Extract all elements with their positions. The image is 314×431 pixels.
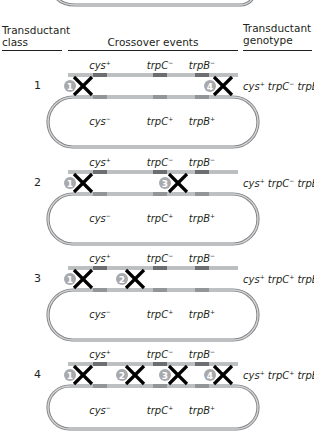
transductant-class-number: 3 xyxy=(34,272,41,285)
crossover-number-4: 4 xyxy=(207,371,213,381)
donor-gene-marker-trpB xyxy=(195,170,209,174)
donor-gene-label-trpB: trpB− xyxy=(189,252,215,264)
donor-gene-label-cys: cys+ xyxy=(89,348,111,360)
donor-gene-label-trpC: trpC− xyxy=(147,156,173,168)
recipient-gene-marker-trpC xyxy=(153,288,167,292)
transductant-class-number: 4 xyxy=(34,368,41,381)
recipient-gene-label-trpC: trpC+ xyxy=(147,404,173,416)
recipient-gene-marker-trpC xyxy=(153,95,167,99)
recipient-gene-label-trpC: trpC+ xyxy=(147,115,173,127)
recipient-gene-label-cys: cys− xyxy=(89,404,111,416)
donor-gene-label-trpC: trpC− xyxy=(147,59,173,71)
transductant-genotype: cys+ trpC+ trpB+ xyxy=(243,273,314,285)
donor-gene-marker-trpC xyxy=(153,266,167,270)
recipient-gene-marker-cys xyxy=(93,95,107,99)
recipient-gene-label-trpC: trpC+ xyxy=(147,212,173,224)
donor-gene-marker-trpC xyxy=(153,73,167,77)
donor-gene-marker-trpC xyxy=(153,170,167,174)
recipient-gene-label-cys: cys− xyxy=(89,115,111,127)
recipient-gene-label-trpB: trpB+ xyxy=(189,404,215,416)
header-transductant-class: Transductant class xyxy=(2,24,70,48)
donor-gene-label-trpC: trpC− xyxy=(147,348,173,360)
donor-gene-label-trpC: trpC− xyxy=(147,252,173,264)
crossover-number-1: 1 xyxy=(67,275,73,285)
donor-gene-label-trpB: trpB− xyxy=(189,156,215,168)
recipient-gene-label-trpB: trpB+ xyxy=(189,308,215,320)
crossover-number-2: 2 xyxy=(119,275,125,285)
recipient-gene-marker-cys xyxy=(93,192,107,196)
transductant-genotype: cys+ trpC− trpB− xyxy=(243,80,314,92)
recipient-gene-marker-trpC xyxy=(153,192,167,196)
recipient-gene-marker-cys xyxy=(93,384,107,388)
donor-gene-marker-trpB xyxy=(195,73,209,77)
transductant-class-number: 2 xyxy=(34,176,41,189)
header-crossover-events: Crossover events xyxy=(68,36,238,48)
header-transductant-genotype: Transductant genotype xyxy=(243,22,311,46)
donor-gene-marker-trpB xyxy=(195,362,209,366)
recipient-gene-label-trpB: trpB+ xyxy=(189,212,215,224)
partial-chromosome-loop xyxy=(50,0,258,5)
donor-gene-label-cys: cys+ xyxy=(89,156,111,168)
donor-gene-marker-cys xyxy=(93,73,107,77)
crossover-number-3: 3 xyxy=(162,371,168,381)
header-underline-crossover xyxy=(68,50,238,51)
donor-gene-marker-cys xyxy=(93,362,107,366)
recipient-gene-label-cys: cys− xyxy=(89,212,111,224)
donor-gene-label-trpB: trpB− xyxy=(189,348,215,360)
donor-gene-label-cys: cys+ xyxy=(89,59,111,71)
crossover-number-4: 4 xyxy=(207,82,213,92)
donor-gene-label-trpB: trpB− xyxy=(189,59,215,71)
header-underline-class xyxy=(2,50,62,51)
crossover-number-2: 2 xyxy=(119,371,125,381)
recipient-gene-label-trpC: trpC+ xyxy=(147,308,173,320)
recipient-gene-marker-trpB xyxy=(195,192,209,196)
recipient-gene-marker-cys xyxy=(93,288,107,292)
crossover-number-1: 1 xyxy=(67,371,73,381)
donor-gene-marker-trpC xyxy=(153,362,167,366)
crossover-number-1: 1 xyxy=(67,179,73,189)
crossover-number-3: 3 xyxy=(162,179,168,189)
donor-gene-marker-cys xyxy=(93,266,107,270)
donor-gene-marker-cys xyxy=(93,170,107,174)
header-genotype-line2: genotype xyxy=(243,34,311,46)
header-class-line2: class xyxy=(2,36,70,48)
recipient-gene-marker-trpB xyxy=(195,384,209,388)
transductant-class-number: 1 xyxy=(34,79,41,92)
recipient-gene-marker-trpB xyxy=(195,288,209,292)
recipient-gene-marker-trpB xyxy=(195,95,209,99)
recipient-gene-label-trpB: trpB+ xyxy=(189,115,215,127)
donor-gene-marker-trpB xyxy=(195,266,209,270)
crossover-number-1: 1 xyxy=(67,82,73,92)
header-class-line1: Transductant xyxy=(2,24,70,36)
recipient-gene-label-cys: cys− xyxy=(89,308,111,320)
header-genotype-line1: Transductant xyxy=(243,22,311,34)
recipient-gene-marker-trpC xyxy=(153,384,167,388)
transductant-genotype: cys+ trpC− trpB+ xyxy=(243,177,314,189)
header-underline-genotype xyxy=(243,50,312,51)
transductant-genotype: cys+ trpC+ trpB− xyxy=(243,369,314,381)
donor-gene-label-cys: cys+ xyxy=(89,252,111,264)
